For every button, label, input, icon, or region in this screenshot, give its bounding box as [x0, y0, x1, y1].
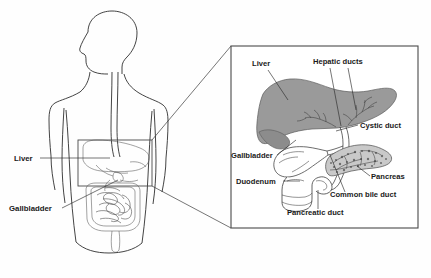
inset-label-pancreas: Pancreas	[371, 172, 405, 181]
human-body-outline	[49, 11, 168, 253]
magnification-leader-lines	[152, 46, 231, 228]
anatomy-figure: Liver Gallbladder	[0, 0, 431, 278]
body-abdominal-organs	[83, 140, 149, 252]
inset-label-hepatic-ducts: Hepatic ducts	[313, 57, 363, 66]
anatomy-illustration-svg: Liver Gallbladder	[0, 0, 431, 278]
inset-label-cystic-duct: Cystic duct	[360, 121, 401, 130]
body-label-liver: Liver	[14, 154, 33, 163]
inset-label-pancreatic-duct: Pancreatic duct	[287, 208, 344, 217]
inset-label-gallbladder: Gallbladder	[231, 151, 273, 160]
body-label-gallbladder-group: Gallbladder	[9, 180, 118, 213]
inset-label-liver: Liver	[252, 59, 270, 68]
inset-label-duodenum: Duodenum	[236, 177, 276, 186]
inset-label-common-bile-duct: Common bile duct	[330, 190, 397, 199]
body-label-gallbladder: Gallbladder	[9, 204, 52, 213]
esophagus-tract	[111, 72, 120, 157]
